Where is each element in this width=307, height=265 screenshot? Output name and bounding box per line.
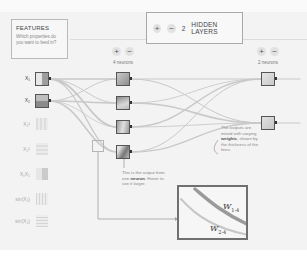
features-title: FEATURES [16,25,63,31]
header-divider-left [70,39,146,40]
layer-1-neuron-count: 4 neurons [113,60,133,65]
layer-2-neuron-2[interactable] [261,116,275,130]
hidden-layers-control: + − 2 HIDDEN LAYERS [146,12,243,44]
feature-label-x1-squared: X₁² [8,121,30,127]
header-divider-right [243,39,307,40]
weights-annotation: The outputs are mixed with varying weigh… [221,125,263,153]
layer-1-add-neuron-button[interactable]: + [112,47,121,56]
feature-x1-squared-heatmap-icon[interactable] [36,118,48,130]
layer-2-neuron-1[interactable] [261,72,275,86]
hidden-layer-count: 2 [182,25,186,32]
layer-2-add-neuron-button[interactable]: + [257,47,266,56]
feature-label-x1x2: X₁X₂ [8,171,30,177]
feature-label-sin-x2: sin(X₂) [8,218,30,224]
layer-2-remove-neuron-button[interactable]: − [270,47,279,56]
feature-x2-squared-heatmap-icon[interactable] [36,143,48,155]
layer-1-neuron-4[interactable] [116,145,130,159]
features-panel: FEATURES Which properties do you want to… [11,19,68,59]
layer-1-neuron-3[interactable] [116,120,130,134]
weights-zoom-inset: W1-4 W2-4 [177,185,248,240]
feature-sin-x2-heatmap-icon[interactable] [36,215,48,227]
features-subtitle: Which properties do you want to feed in? [16,34,63,46]
hidden-layers-label: HIDDEN LAYERS [191,21,242,35]
layer-1-neuron-1[interactable] [116,72,130,86]
layer-2-controls: + − [257,47,279,56]
layer-1-controls: + − [112,47,134,56]
layer-1-remove-neuron-button[interactable]: − [125,47,134,56]
feature-label-x1: X₁ [8,75,30,81]
feature-x1-heatmap-icon[interactable] [35,72,49,86]
feature-label-x2: X₂ [8,97,30,103]
feature-label-x2-squared: X₂² [8,146,30,152]
feature-label-sin-x1: sin(X₁) [8,196,30,202]
neuron-output-annotation: This is the output from one neuron. Hove… [122,170,167,187]
add-layer-button[interactable]: + [153,24,161,33]
layer-1-neuron-2[interactable] [116,96,130,110]
feature-sin-x1-heatmap-icon[interactable] [36,193,48,205]
feature-x2-heatmap-icon[interactable] [35,94,49,108]
weight-highlight-box [92,140,104,152]
weight-label-w2-4: W2-4 [210,224,226,235]
remove-layer-button[interactable]: − [167,24,175,33]
weight-label-w1-4: W1-4 [223,202,239,213]
layer-2-neuron-count: 2 neurons [258,60,278,65]
feature-x1x2-heatmap-icon[interactable] [36,168,48,180]
